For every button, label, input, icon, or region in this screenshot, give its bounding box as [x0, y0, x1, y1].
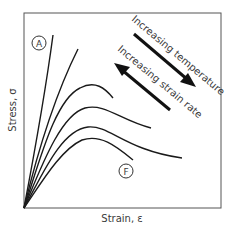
x-axis-label: Strain, ε — [101, 213, 142, 224]
curve-c — [24, 85, 113, 208]
curves — [24, 35, 182, 208]
svg-text:F: F — [123, 167, 128, 177]
marker-a: A — [32, 36, 46, 50]
marker-f: F — [119, 164, 133, 178]
y-axis-label: Stress, σ — [7, 88, 18, 132]
label-temperature: Increasing temperature — [130, 13, 227, 97]
svg-text:A: A — [36, 39, 43, 49]
stress-strain-diagram: A F Increasing temperature Increasing st… — [0, 0, 232, 229]
curve-d — [24, 107, 151, 208]
